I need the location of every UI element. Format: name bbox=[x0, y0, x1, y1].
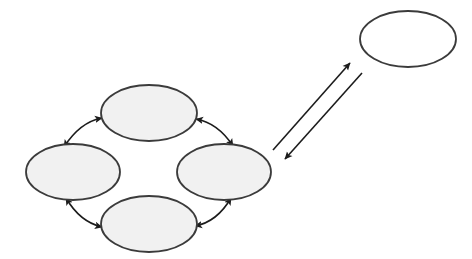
connector-left-top bbox=[64, 118, 102, 147]
diagram-canvas: Cycle diagram of four linked shaded elli… bbox=[0, 0, 472, 259]
external-ellipse[interactable] bbox=[360, 11, 456, 67]
diagram-svg bbox=[0, 0, 472, 259]
right-ellipse[interactable] bbox=[177, 144, 271, 200]
connector-inbound-from-external bbox=[285, 73, 362, 159]
connector-bottom-right bbox=[195, 198, 231, 226]
connector-outbound-to-external bbox=[273, 63, 350, 150]
top-ellipse[interactable] bbox=[101, 85, 197, 141]
left-ellipse[interactable] bbox=[26, 144, 120, 200]
bottom-ellipse[interactable] bbox=[101, 196, 197, 252]
connector-top-right bbox=[196, 119, 233, 146]
connector-left-bottom bbox=[66, 198, 102, 227]
node-layer bbox=[26, 11, 456, 252]
